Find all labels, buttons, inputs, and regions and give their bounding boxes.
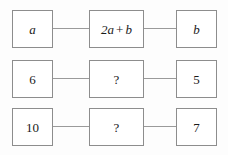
- box-left-row-3: 10: [12, 108, 53, 146]
- box-left-row-2: 6: [12, 60, 53, 98]
- box-right-row-1-value: b: [193, 23, 200, 36]
- box-middle-row-2: ?: [89, 60, 144, 98]
- box-middle-row-1-operator: +: [114, 23, 125, 36]
- box-middle-row-2-value: ?: [114, 73, 120, 86]
- box-left-row-1: a: [12, 10, 53, 48]
- connector-line-left-row-2: [52, 78, 90, 79]
- box-middle-row-1: 2a+b: [89, 10, 144, 48]
- box-right-row-1: b: [176, 10, 217, 48]
- box-middle-row-1-term-1: 2a: [101, 23, 114, 36]
- box-middle-row-1-term-2: b: [125, 23, 132, 36]
- diagram-canvas: a 2a+b b 6 ? 5 10 ? 7: [0, 0, 228, 155]
- box-left-row-2-value: 6: [29, 73, 36, 86]
- connector-line-right-row-2: [143, 78, 177, 79]
- box-right-row-3: 7: [176, 108, 217, 146]
- box-middle-row-3-value: ?: [114, 121, 120, 134]
- connector-line-left-row-3: [52, 126, 90, 127]
- box-left-row-1-value: a: [29, 23, 36, 36]
- diagram-row-variables: a 2a+b b: [0, 10, 228, 48]
- connector-line-right-row-3: [143, 126, 177, 127]
- box-middle-row-3: ?: [89, 108, 144, 146]
- box-left-row-3-value: 10: [26, 121, 39, 134]
- diagram-row-second-values: 10 ? 7: [0, 108, 228, 146]
- box-right-row-2: 5: [176, 60, 217, 98]
- diagram-row-first-values: 6 ? 5: [0, 60, 228, 98]
- connector-line-left-row-1: [52, 28, 90, 29]
- box-right-row-3-value: 7: [193, 121, 200, 134]
- box-right-row-2-value: 5: [193, 73, 200, 86]
- connector-line-right-row-1: [143, 28, 177, 29]
